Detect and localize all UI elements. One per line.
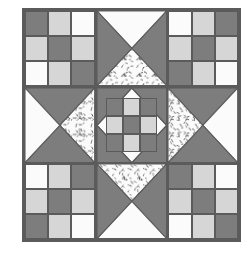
patch-square: [215, 11, 238, 36]
quarter-square-triangle-bottom: [97, 164, 167, 239]
patch-square: [215, 61, 238, 86]
quarter-square-triangle-right: [168, 88, 238, 163]
patch-square: [25, 164, 48, 189]
unit-middle-left: [24, 87, 96, 164]
patch-square: [168, 36, 191, 61]
patch-square: [48, 11, 71, 36]
patch-square: [123, 116, 140, 134]
patch-square: [48, 164, 71, 189]
patch-square: [140, 116, 157, 134]
patch-square: [25, 61, 48, 86]
nine-patch-top-right: [168, 11, 238, 86]
patch-square: [25, 11, 48, 36]
patch-square: [71, 164, 94, 189]
unit-bottom-left: [24, 163, 96, 240]
unit-bottom-center: [96, 163, 168, 240]
patch-square: [192, 11, 215, 36]
patch-square: [71, 36, 94, 61]
patch-square: [192, 164, 215, 189]
unit-top-right: [167, 10, 239, 87]
nine-patch-top-left: [25, 11, 95, 86]
patch-square: [215, 36, 238, 61]
unit-top-center: [96, 10, 168, 87]
patch-square: [25, 189, 48, 214]
nine-patch-center: [106, 98, 156, 152]
patch-square: [25, 36, 48, 61]
patch-square: [215, 189, 238, 214]
patch-square: [215, 164, 238, 189]
diagram-canvas: [0, 0, 248, 254]
patch-square: [168, 61, 191, 86]
patch-square: [106, 116, 123, 134]
patch-square: [140, 98, 157, 116]
unit-center: [96, 87, 168, 164]
nine-patch-bottom-right: [168, 164, 238, 239]
patch-square: [168, 214, 191, 239]
quilt-block: [22, 8, 241, 242]
patch-square: [71, 61, 94, 86]
patch-square: [106, 98, 123, 116]
patch-square: [106, 134, 123, 152]
unit-top-left: [24, 10, 96, 87]
patch-square: [192, 189, 215, 214]
patch-square: [168, 189, 191, 214]
patch-square: [25, 214, 48, 239]
patch-square: [192, 36, 215, 61]
patch-square: [140, 134, 157, 152]
patch-square: [168, 164, 191, 189]
patch-square: [168, 11, 191, 36]
quarter-square-triangle-top: [97, 11, 167, 86]
patch-square: [123, 98, 140, 116]
patch-square: [48, 61, 71, 86]
patch-square: [215, 214, 238, 239]
patch-square: [71, 189, 94, 214]
nine-patch-bottom-left: [25, 164, 95, 239]
unit-bottom-right: [167, 163, 239, 240]
center-diamond: [97, 88, 167, 163]
patch-square: [71, 214, 94, 239]
patch-square: [71, 11, 94, 36]
patch-square: [48, 189, 71, 214]
patch-square: [48, 36, 71, 61]
quarter-square-triangle-left: [25, 88, 95, 163]
patch-square: [192, 61, 215, 86]
patch-square: [192, 214, 215, 239]
patch-square: [48, 214, 71, 239]
patch-square: [123, 134, 140, 152]
unit-middle-right: [167, 87, 239, 164]
